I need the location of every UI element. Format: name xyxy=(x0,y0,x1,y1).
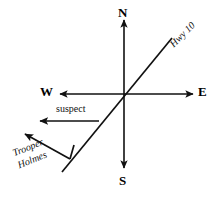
label-west: W xyxy=(40,85,53,98)
label-suspect: suspect xyxy=(56,104,85,114)
label-north: N xyxy=(118,6,127,19)
label-east: E xyxy=(198,85,207,98)
label-south: S xyxy=(119,174,126,187)
compass-diagram: N S W E Hwy 10 suspect Trooper Holmes xyxy=(0,0,215,197)
